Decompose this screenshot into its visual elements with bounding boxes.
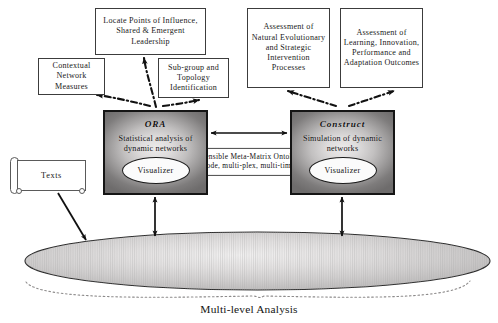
- arrow-ora-to-subgroup: [163, 100, 199, 106]
- visualizer-ellipse-construct: Visualizer: [309, 157, 377, 184]
- diagram-canvas: Locate Points of Influence, Shared & Eme…: [0, 0, 498, 323]
- tool-title-ora: ORA: [145, 119, 167, 129]
- concept-box-assessment-natural-evolutionary: Assessment of Natural Evolutionary and S…: [247, 8, 330, 88]
- scroll-texts-label: Texts: [17, 160, 86, 191]
- tool-box-ora: ORA Statistical analysis of dynamic netw…: [103, 110, 208, 195]
- tool-box-construct: Construct Simulation of dynamic networks…: [290, 110, 395, 195]
- arrow-ora-to-locate: [144, 58, 156, 107]
- scroll-texts-source: Texts: [10, 157, 86, 194]
- visualizer-ellipse-ora: Visualizer: [122, 157, 190, 184]
- caption-multi-level-analysis: Multi-level Analysis: [0, 303, 498, 315]
- scroll-curl-bottom-left-icon: [16, 188, 22, 194]
- concept-box-subgroup-topology: Sub-group and Topology Identification: [158, 58, 229, 98]
- tool-description-ora: Statistical analysis of dynamic networks: [105, 134, 206, 154]
- scroll-curl-bottom-right-icon: [79, 188, 85, 194]
- arrow-construct-to-natural: [288, 91, 336, 106]
- tool-title-construct: Construct: [320, 119, 365, 129]
- tool-description-construct: Simulation of dynamic networks: [292, 134, 393, 154]
- arrow-construct-to-learning: [349, 91, 394, 106]
- concept-box-locate-points: Locate Points of Influence, Shared & Eme…: [95, 8, 206, 55]
- concept-box-contextual-network-measures: Contextual Network Measures: [38, 58, 105, 95]
- concept-box-assessment-learning-outcomes: Assessment of Learning, Innovation, Perf…: [340, 8, 423, 88]
- arrow-ora-to-context: [97, 95, 150, 106]
- arrow-texts-to-ontology: [58, 193, 86, 240]
- ontology-ellipse-shape: [25, 232, 490, 290]
